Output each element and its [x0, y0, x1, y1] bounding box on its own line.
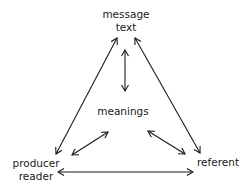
node-referent-label: referent: [197, 156, 239, 168]
node-message-label: message: [96, 8, 156, 21]
node-referent: referent: [188, 156, 248, 169]
node-text-label: text: [96, 21, 156, 34]
node-reader-label: reader: [6, 170, 66, 183]
node-message-text: message text: [96, 8, 156, 34]
arrow-message-producer: [56, 38, 117, 154]
node-producer-label: producer: [6, 157, 66, 170]
arrow-message-referent: [135, 38, 200, 153]
arrow-meanings-referent: [148, 131, 185, 154]
node-meanings: meanings: [93, 105, 153, 118]
node-producer-reader: producer reader: [6, 157, 66, 183]
node-meanings-label: meanings: [97, 105, 149, 117]
arrow-meanings-producer: [72, 132, 108, 155]
